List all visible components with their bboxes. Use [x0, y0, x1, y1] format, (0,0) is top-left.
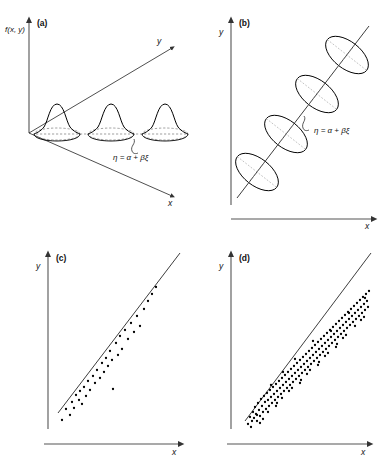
scatter-point [109, 350, 111, 352]
scatter-point [290, 368, 292, 370]
scatter-point [269, 389, 271, 391]
scatter-point [92, 375, 94, 377]
scatter-point [278, 380, 280, 382]
scatter-point [71, 401, 73, 403]
panel-b-annotation: η = α + βξ [314, 126, 350, 135]
scatter-point [344, 314, 346, 316]
scatter-point [124, 329, 126, 331]
panel-b-ellipse-2 [258, 108, 314, 160]
panel-a-tag: (a) [37, 18, 48, 28]
scatter-point [275, 405, 277, 407]
scatter-point [345, 334, 347, 336]
scatter-point [275, 383, 277, 385]
scatter-point [368, 290, 370, 292]
scatter-point [288, 378, 290, 380]
scatter-point [296, 362, 298, 364]
panel-a-depth-axis-label: y [156, 36, 162, 46]
panel-c-scatter-points [61, 286, 157, 421]
scatter-point [318, 348, 320, 350]
panel-c-regression-line [58, 253, 180, 413]
scatter-point [363, 316, 365, 318]
scatter-point [350, 308, 352, 310]
scatter-point [355, 318, 357, 320]
scatter-point [339, 327, 341, 329]
scatter-point [294, 372, 296, 374]
scatter-point [366, 300, 368, 302]
scatter-point [249, 416, 251, 418]
scatter-point [293, 365, 295, 367]
scatter-point [250, 426, 252, 428]
scatter-point [295, 378, 297, 380]
scatter-point [288, 390, 290, 392]
panel-b-ellipse-1 [229, 146, 285, 198]
scatter-point [99, 377, 101, 379]
scatter-point [327, 339, 329, 341]
scatter-point [136, 315, 138, 317]
scatter-point [258, 409, 260, 411]
scatter-point [342, 337, 344, 339]
scatter-point [264, 401, 266, 403]
scatter-point [332, 326, 334, 328]
scatter-point [300, 379, 302, 381]
scatter-point [356, 302, 358, 304]
scatter-point [358, 315, 360, 317]
scatter-point [325, 348, 327, 350]
scatter-point [349, 324, 351, 326]
scatter-point [78, 399, 80, 401]
scatter-point [81, 403, 83, 405]
scatter-point [337, 336, 339, 338]
scatter-point [303, 363, 305, 365]
scatter-point [96, 369, 98, 371]
scatter-point [300, 366, 302, 368]
panel-d-vertical-axis-label: y [218, 261, 224, 271]
scatter-point [274, 399, 276, 401]
scatter-point [273, 393, 275, 395]
scatter-point [270, 384, 272, 386]
panel-d-horizontal-axis-label: x [360, 447, 366, 457]
scatter-point [89, 389, 91, 391]
scatter-point [291, 387, 293, 389]
scatter-point [335, 323, 337, 325]
scatter-point [259, 422, 261, 424]
scatter-point [365, 293, 367, 295]
scatter-point [316, 357, 318, 359]
scatter-point [262, 418, 264, 420]
scatter-point [267, 411, 269, 413]
scatter-point [367, 306, 369, 308]
panel-c-horizontal-axis-label: x [171, 447, 177, 457]
scatter-point [285, 381, 287, 383]
scatter-point [308, 350, 310, 352]
scatter-point [143, 308, 145, 310]
scatter-point [151, 293, 153, 295]
scatter-point [364, 309, 366, 311]
scatter-point [284, 374, 286, 376]
panel-a-annotation-leader [132, 139, 138, 154]
scatter-point [147, 300, 149, 302]
scatter-point [253, 417, 255, 419]
panel-a-vertical-axis-label: f(x, y) [5, 25, 25, 34]
scatter-point [73, 407, 75, 409]
scatter-point [338, 320, 340, 322]
scatter-point [85, 395, 87, 397]
scatter-point [115, 342, 117, 344]
scatter-point [336, 330, 338, 332]
panel-c-tag: (c) [56, 253, 67, 263]
scatter-point [309, 357, 311, 359]
scatter-point [340, 333, 342, 335]
scatter-point [323, 335, 325, 337]
scatter-point [94, 382, 96, 384]
scatter-point [281, 377, 283, 379]
panel-d-scatter-points [247, 290, 370, 428]
scatter-point [342, 324, 344, 326]
scatter-point [336, 343, 338, 345]
scatter-point [276, 402, 278, 404]
scatter-point [301, 372, 303, 374]
scatter-point [318, 361, 320, 363]
scatter-point [283, 390, 285, 392]
panel-a-horizontal-axis [29, 133, 172, 196]
scatter-point [291, 375, 293, 377]
scatter-point [256, 414, 258, 416]
scatter-point [348, 318, 350, 320]
scatter-point [361, 312, 363, 314]
panel-d: y (d) x [193, 231, 386, 462]
